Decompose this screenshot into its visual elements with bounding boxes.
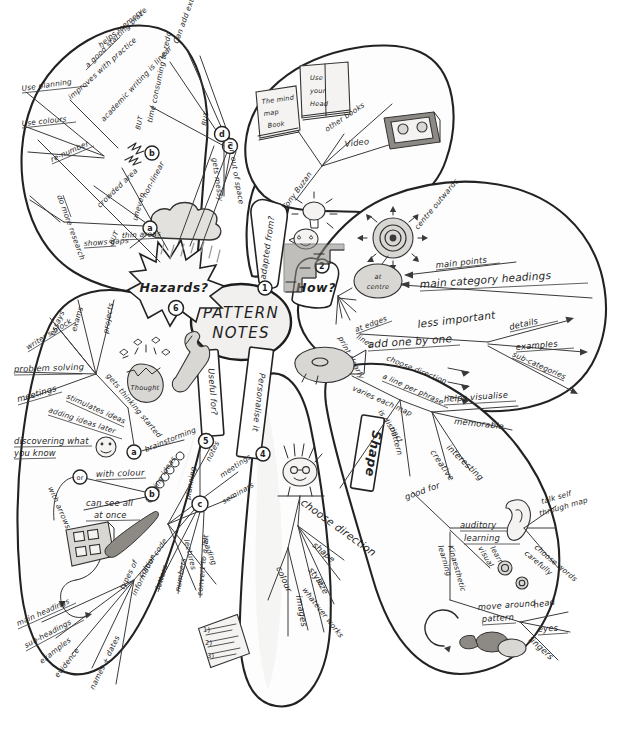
mindmap-canvas: PATTERN NOTES adapted from? 1 How? 2 Sha…: [0, 0, 632, 743]
useful-use-6-l1: discovering what: [14, 436, 89, 446]
hazards-item-14: Can add extra sheets: [171, 0, 208, 45]
hazards-but-label-c: BUT: [200, 110, 211, 126]
hazards-item-16: run out of space: [226, 141, 246, 205]
useful-or-label: or: [76, 474, 83, 482]
mindmap-svg: PATTERN NOTES adapted from? 1 How? 2 Sha…: [0, 0, 632, 743]
svg-text:3): 3): [207, 652, 214, 660]
useful-node-a: a: [131, 448, 137, 457]
section-label-adapted-from[interactable]: adapted from? 1: [251, 200, 287, 295]
useful-node-b: b: [149, 490, 155, 499]
smiley-icon: [96, 437, 116, 457]
centre-title-line2: NOTES: [212, 324, 270, 342]
video-cassette-icon: [384, 112, 440, 149]
svg-text:2): 2): [205, 639, 212, 647]
useful-node-c: c: [198, 500, 203, 509]
shape-style-0-name-l2: learning: [464, 533, 500, 543]
how-level-0-position-l1: at: [374, 273, 381, 281]
useful-see-all-l1: can see all: [86, 498, 133, 508]
svg-text:1): 1): [203, 626, 210, 634]
useful-thought-bubble: Thought: [131, 384, 160, 392]
useful-use-6-l2: you know: [13, 448, 56, 458]
hazards-node-d: d: [219, 130, 225, 139]
sources-item-1-l2: your: [309, 87, 327, 95]
sources-item-1-l1: Use: [310, 74, 323, 82]
book-icon-useyourhead: Use your Head: [300, 62, 351, 120]
shape-style-0-name-l1: auditory: [460, 520, 497, 530]
useful-see-all-l2: at once: [94, 510, 127, 520]
section-label-text-6: Hazards?: [139, 280, 208, 295]
useful-with-colour: with colour: [96, 467, 145, 479]
section-number-1: 1: [262, 284, 268, 293]
shape-style-2-item-3: fingers: [527, 634, 557, 662]
shape-style-2-item-2: eyes: [537, 623, 559, 634]
section-number-6: 6: [173, 304, 179, 313]
section-number-4: 4: [260, 450, 266, 459]
sources-item-1-l3: Head: [310, 100, 329, 108]
hazards-node-b: b: [149, 149, 155, 158]
section-number-5: 5: [203, 437, 209, 446]
how-level-0-position-l2: centre: [367, 283, 389, 291]
useful-notes-item-0: meetings: [218, 452, 253, 480]
